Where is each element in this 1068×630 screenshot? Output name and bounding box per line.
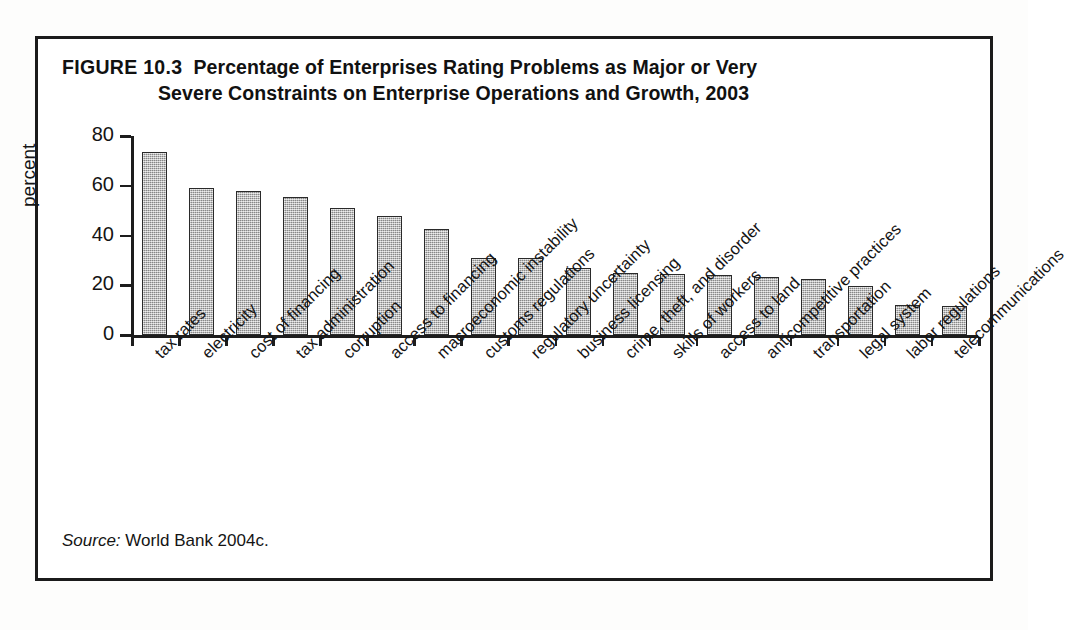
source-label: Source: <box>62 531 121 550</box>
y-axis-tick <box>120 284 131 287</box>
source-note: Source: World Bank 2004c. <box>62 531 269 551</box>
y-axis-tick <box>120 334 131 337</box>
y-axis-tick <box>120 235 131 238</box>
y-axis-tick-label-text: 40 <box>56 223 114 246</box>
y-axis-tick <box>120 135 131 138</box>
y-axis-title: percent <box>18 144 40 207</box>
y-axis-tick <box>120 185 131 188</box>
y-axis-line <box>131 136 134 335</box>
chart-plot-area: percent 020406080 tax rateselectricityco… <box>38 39 996 584</box>
y-axis-tick-label-text: 20 <box>56 272 114 295</box>
source-text: World Bank 2004c. <box>125 531 268 550</box>
y-axis-tick-label-text: 0 <box>56 322 114 345</box>
figure-frame: FIGURE 10.3 Percentage of Enterprises Ra… <box>35 36 993 581</box>
x-axis-tick <box>131 337 134 346</box>
y-axis-tick-label-text: 80 <box>56 123 114 146</box>
y-axis-tick-label-text: 60 <box>56 173 114 196</box>
bar <box>142 152 167 335</box>
